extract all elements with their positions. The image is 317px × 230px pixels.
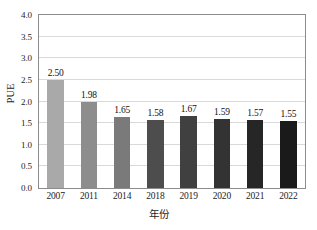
bar[interactable] — [81, 102, 98, 188]
bar[interactable] — [247, 120, 264, 188]
y-axis-tick-labels: 0.00.51.01.52.02.53.03.54.0 — [0, 14, 36, 189]
y-axis-tick-label: 0.0 — [21, 183, 32, 193]
bar-slot: 1.59 — [205, 15, 238, 188]
bar-value-label: 1.57 — [247, 108, 263, 118]
bar-value-label: 1.55 — [280, 109, 296, 119]
bar[interactable] — [214, 119, 231, 188]
y-axis-tick-label: 4.0 — [21, 10, 32, 20]
y-axis-tick-label: 3.0 — [21, 53, 32, 63]
x-axis-tick-label: 2011 — [80, 191, 98, 201]
y-axis-tick-label: 1.0 — [21, 140, 32, 150]
x-axis-tick-label: 2007 — [47, 191, 65, 201]
y-axis-tick-label: 2.5 — [21, 75, 32, 85]
x-axis-tick-label: 2019 — [180, 191, 198, 201]
x-axis-title: 年份 — [0, 206, 317, 221]
x-axis-tick-label: 2022 — [279, 191, 297, 201]
bar[interactable] — [280, 121, 297, 188]
bar-slot: 1.98 — [72, 15, 105, 188]
bar[interactable] — [114, 117, 131, 188]
bar-value-label: 2.50 — [48, 68, 64, 78]
x-axis-tick-label: 2018 — [146, 191, 164, 201]
bar-slot: 1.65 — [106, 15, 139, 188]
bar-value-label: 1.65 — [114, 105, 130, 115]
x-axis-tick-labels: 20072011201420182019202020212022 — [39, 191, 305, 205]
x-axis-tick-label: 2020 — [213, 191, 231, 201]
x-axis-tick-label: 2021 — [246, 191, 264, 201]
y-axis-tick-label: 3.5 — [21, 32, 32, 42]
y-axis-tick-label: 0.5 — [21, 161, 32, 171]
bar-value-label: 1.67 — [181, 104, 197, 114]
chart-figure: PUE 0.00.51.01.52.02.53.03.54.0 2.501.98… — [0, 0, 317, 230]
bar-value-label: 1.58 — [147, 108, 163, 118]
bar-slot: 1.58 — [139, 15, 172, 188]
bar-slot: 1.57 — [239, 15, 272, 188]
bar[interactable] — [47, 80, 64, 188]
bar[interactable] — [180, 116, 197, 188]
bar-slot: 2.50 — [39, 15, 72, 188]
bar-slot: 1.55 — [272, 15, 305, 188]
bar-series: 2.501.981.651.581.671.591.571.55 — [39, 15, 305, 188]
y-axis-tick-label: 1.5 — [21, 118, 32, 128]
bar-slot: 1.67 — [172, 15, 205, 188]
bar-value-label: 1.98 — [81, 90, 97, 100]
y-axis-tick-label: 2.0 — [21, 97, 32, 107]
bar-value-label: 1.59 — [214, 107, 230, 117]
x-axis-tick-label: 2014 — [113, 191, 131, 201]
bar[interactable] — [147, 120, 164, 188]
